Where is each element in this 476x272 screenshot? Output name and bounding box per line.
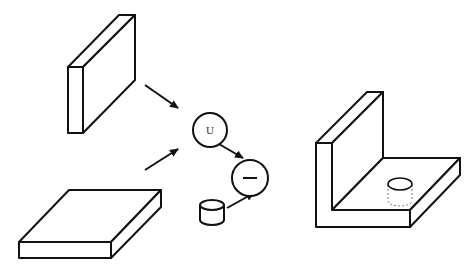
horizontal-plate bbox=[19, 190, 161, 258]
arrow-vertical-to-union bbox=[145, 85, 178, 108]
cylinder bbox=[200, 200, 224, 225]
csg-diagram: U bbox=[0, 0, 476, 272]
union-operator: U bbox=[193, 113, 227, 147]
arrow-union-to-difference bbox=[219, 144, 243, 158]
l-bracket-result bbox=[316, 92, 460, 227]
arrow-horizontal-to-union bbox=[145, 149, 178, 170]
difference-operator bbox=[232, 160, 268, 196]
vertical-plate bbox=[68, 15, 135, 133]
union-label: U bbox=[206, 124, 214, 136]
